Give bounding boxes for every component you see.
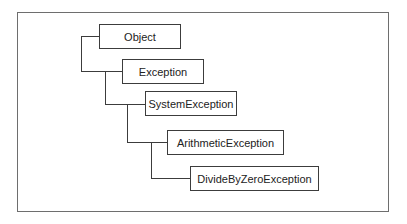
node-system-exception-label: SystemException [149,98,234,110]
node-exception: Exception [122,59,204,84]
node-object-label: Object [124,31,156,43]
node-divide-by-zero-exception-label: DivideByZeroException [197,173,311,185]
node-arithmetic-exception-label: ArithmeticException [177,137,274,149]
connector-system-arithmetic-vertical [127,104,128,143]
node-system-exception: SystemException [145,91,237,116]
node-exception-label: Exception [139,66,187,78]
connector-exception-system-bottom [105,104,145,105]
node-arithmetic-exception: ArithmeticException [167,130,284,155]
connector-arithmetic-dividebyzero-bottom [151,178,190,179]
connector-object-exception-bottom [81,71,122,72]
connector-object-exception-vertical [81,36,82,72]
node-object: Object [99,24,181,49]
connector-arithmetic-dividebyzero-vertical [151,142,152,179]
node-divide-by-zero-exception: DivideByZeroException [190,166,319,191]
connector-object-exception-top [81,36,99,37]
connector-exception-system-vertical [105,71,106,105]
connector-system-arithmetic-bottom [127,142,167,143]
